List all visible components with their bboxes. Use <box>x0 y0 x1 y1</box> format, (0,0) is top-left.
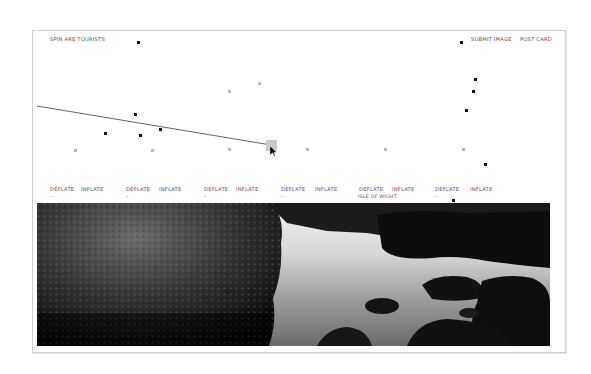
inflate-button-6[interactable]: INFLATE <box>470 186 492 192</box>
inflate-button-2[interactable]: INFLATE <box>159 186 181 192</box>
anchor-marker[interactable] <box>306 148 309 151</box>
point-marker[interactable] <box>134 113 137 116</box>
deflate-button-6[interactable]: DEFLATE <box>435 186 459 192</box>
inflate-button-4[interactable]: INFLATE <box>315 186 337 192</box>
deflate-button-1[interactable]: DEFLATE <box>50 186 74 192</box>
point-marker[interactable] <box>474 78 477 81</box>
deflate-button-2[interactable]: DEFLATE <box>126 186 150 192</box>
point-marker[interactable] <box>137 41 140 44</box>
deflate-button-5[interactable]: DEFLATE <box>359 186 383 192</box>
point-marker[interactable] <box>460 41 463 44</box>
postcard-photo <box>37 203 550 346</box>
point-marker[interactable] <box>452 199 455 202</box>
point-marker[interactable] <box>484 163 487 166</box>
value-indicator-6: – <box>435 193 438 199</box>
point-marker[interactable] <box>104 132 107 135</box>
location-caption: ISLE OF WIGHT <box>358 194 397 199</box>
anchor-marker[interactable] <box>228 90 231 93</box>
anchor-marker[interactable] <box>258 82 261 85</box>
value-indicator-3: – <box>204 193 207 199</box>
inflate-button-3[interactable]: INFLATE <box>236 186 258 192</box>
anchor-marker[interactable] <box>384 148 387 151</box>
inflate-button-1[interactable]: INFLATE <box>81 186 103 192</box>
rock-pool-image <box>37 203 550 346</box>
deflate-button-4[interactable]: DEFLATE <box>281 186 305 192</box>
anchor-marker[interactable] <box>228 148 231 151</box>
point-marker[interactable] <box>139 134 142 137</box>
value-indicator-2: – <box>126 193 129 199</box>
point-marker[interactable] <box>472 90 475 93</box>
point-marker[interactable] <box>159 128 162 131</box>
anchor-marker[interactable] <box>151 149 154 152</box>
deflate-button-3[interactable]: DEFLATE <box>204 186 228 192</box>
anchor-marker[interactable] <box>462 148 465 151</box>
point-marker[interactable] <box>465 109 468 112</box>
inflate-button-5[interactable]: INFLATE <box>392 186 414 192</box>
value-indicator-4: – <box>281 193 284 199</box>
anchor-marker[interactable] <box>74 149 77 152</box>
value-indicator-1: – <box>50 193 53 199</box>
